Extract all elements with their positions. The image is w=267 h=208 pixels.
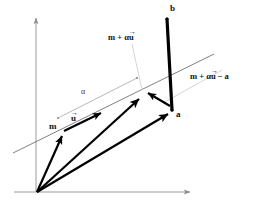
affine-line-m-plus-alpha-u	[13, 54, 214, 153]
vector-u	[64, 113, 101, 131]
vector-diagram-figure: b a m →u α m + α→u m + α→u− a	[0, 0, 267, 208]
vectors-group	[37, 17, 174, 192]
axes-group	[14, 18, 190, 192]
label-alpha: α	[81, 88, 85, 96]
label-residual-vec-glyph: →u	[211, 72, 216, 81]
vector-residual-m-plus-alpha-u-minus-a	[148, 93, 170, 106]
point-b-marker	[165, 17, 168, 20]
label-m-plus-alpha-u-prefix: m + α	[108, 32, 129, 42]
label-m-plus-alpha-u: m + α→u	[108, 33, 134, 42]
u-overbar-icon: →	[211, 68, 216, 75]
label-b: b	[170, 4, 175, 13]
label-m-plus-alpha-u-minus-a: m + α→u− a	[190, 72, 229, 81]
u-overbar-icon: →	[129, 29, 134, 36]
point-a-marker	[170, 108, 173, 111]
segment-a-to-b	[167, 19, 172, 110]
label-u-vector: →u	[71, 114, 76, 123]
label-m-plus-alpha-u-minus-a-prefix: m + α	[190, 71, 211, 81]
leader-line-m-plus-alpha-u	[132, 44, 142, 90]
vector-m-plus-alpha-u	[37, 99, 139, 192]
label-a: a	[176, 110, 181, 119]
alpha-measure-start-dot	[57, 117, 59, 119]
alpha-measure-segment	[57, 77, 138, 119]
u-overbar-icon: →	[71, 110, 76, 117]
label-m-plus-alpha-u-vec-glyph: →u	[129, 33, 134, 42]
label-m: m	[49, 122, 57, 131]
alpha-measure-end-dot	[136, 77, 138, 79]
label-u-vector-glyph: →u	[71, 114, 76, 123]
